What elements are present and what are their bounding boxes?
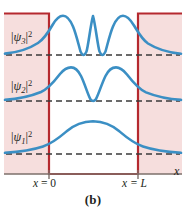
figure-caption: (b) <box>0 192 186 208</box>
state-label-psi2: |ψ2|2 <box>11 79 32 94</box>
psi3-exponent: 2 <box>28 29 32 39</box>
tick-label-x-zero: x = 0 <box>33 178 56 190</box>
tick-label-x-zero-eq: = 0 <box>38 177 56 189</box>
axis-label-x: x <box>174 165 179 177</box>
state-label-psi1: |ψ1|2 <box>11 130 32 145</box>
psi2-exponent: 2 <box>28 78 32 88</box>
figure-finite-square-well: |ψ3|2 |ψ2|2 |ψ1|2 x = 0 x = L x (b) <box>0 0 186 218</box>
tick-label-x-l-eq: = L <box>127 177 147 189</box>
state-label-psi3: |ψ3|2 <box>11 30 32 45</box>
psi1-exponent: 2 <box>28 129 32 139</box>
tick-label-x-l: x = L <box>122 178 147 190</box>
